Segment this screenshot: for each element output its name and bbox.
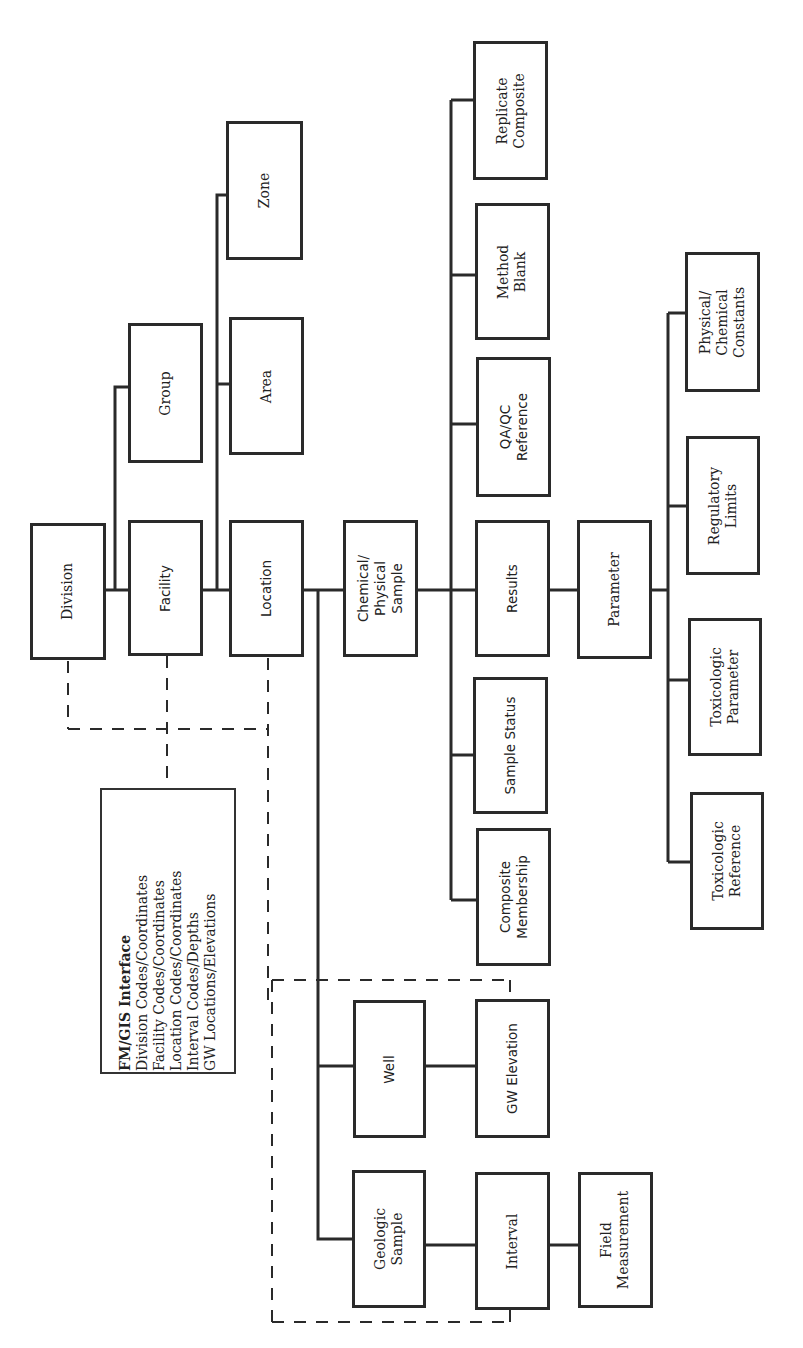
node-chemical-physical-sample: Chemical/ Physical Sample	[343, 520, 418, 657]
node-geologic-sample: Geologic Sample	[352, 1170, 426, 1308]
node-regulatory-limits-label: Regulatory Limits	[706, 466, 740, 544]
node-sample-status-label: Sample Status	[502, 697, 519, 795]
legend-line: Division Codes/Coordinates	[134, 791, 151, 1071]
node-well: Well	[353, 1000, 426, 1138]
node-zone: Zone	[226, 121, 303, 260]
node-qaqc-reference: QA/QC Reference	[476, 357, 551, 497]
node-toxicologic-parameter-label: Toxicologic Parameter	[708, 647, 742, 727]
node-results: Results	[475, 520, 550, 657]
node-gw-elevation: GW Elevation	[475, 999, 550, 1138]
node-qaqc-reference-label: QA/QC Reference	[496, 393, 530, 461]
node-location: Location	[229, 520, 304, 657]
node-field-measurement: Field Measurement	[578, 1172, 653, 1308]
node-interval: Interval	[475, 1172, 550, 1310]
node-replicate-composite-label: Replicate Composite	[494, 73, 528, 148]
node-division-label: Division	[59, 563, 76, 620]
node-area: Area	[229, 317, 304, 455]
connector-lines	[0, 0, 803, 1348]
node-division: Division	[30, 523, 106, 660]
node-chemical-physical-sample-label: Chemical/ Physical Sample	[355, 555, 406, 622]
legend-line: Facility Codes/Coordinates	[151, 791, 168, 1071]
legend-line: Location Codes/Coordinates	[168, 791, 185, 1071]
node-physical-chemical-constants-label: Physical/ Chemical Constants	[697, 286, 748, 357]
node-method-blank: Method Blank	[475, 203, 550, 340]
node-toxicologic-parameter: Toxicologic Parameter	[688, 618, 762, 756]
legend-line: GW Locations/Elevations	[202, 791, 219, 1071]
node-sample-status: Sample Status	[473, 677, 548, 814]
node-parameter: Parameter	[577, 520, 652, 659]
node-field-measurement-label: Field Measurement	[599, 1191, 633, 1289]
node-method-blank-label: Method Blank	[496, 244, 530, 299]
fm-gis-interface-legend: FM/GIS Interface Division Codes/Coordina…	[100, 788, 236, 1074]
node-physical-chemical-constants: Physical/ Chemical Constants	[685, 252, 760, 392]
node-composite-membership-label: Composite Membership	[497, 855, 531, 938]
node-toxicologic-reference-label: Toxicologic Reference	[710, 821, 744, 901]
node-results-label: Results	[504, 564, 521, 613]
node-toxicologic-reference: Toxicologic Reference	[690, 792, 764, 930]
node-facility-label: Facility	[157, 565, 174, 612]
node-composite-membership: Composite Membership	[476, 828, 551, 966]
node-gw-elevation-label: GW Elevation	[504, 1023, 521, 1114]
node-regulatory-limits: Regulatory Limits	[686, 436, 760, 575]
legend-line: Interval Codes/Depths	[185, 791, 202, 1071]
node-interval-label: Interval	[504, 1213, 521, 1269]
node-parameter-label: Parameter	[606, 552, 623, 626]
node-location-label: Location	[258, 560, 275, 617]
node-zone-label: Zone	[256, 173, 273, 208]
node-group-label: Group	[157, 371, 174, 415]
node-geologic-sample-label: Geologic Sample	[372, 1208, 406, 1270]
node-facility: Facility	[128, 520, 203, 656]
node-group: Group	[128, 323, 203, 463]
node-replicate-composite: Replicate Composite	[473, 41, 548, 180]
node-well-label: Well	[381, 1055, 398, 1083]
legend-title: FM/GIS Interface	[117, 791, 134, 1071]
node-area-label: Area	[258, 369, 275, 402]
